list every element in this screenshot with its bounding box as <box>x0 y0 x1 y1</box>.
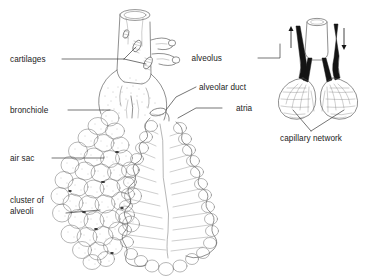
label-atria: atria <box>236 104 253 113</box>
label-alveolus: alveolus <box>192 54 222 63</box>
respiratory-diagram-figure: cartilages bronchiole air sac cluster of… <box>0 0 368 277</box>
cartilage-plate-side <box>122 29 130 39</box>
cartilage-plate-upper <box>131 39 143 53</box>
alveolus-capillary-inset <box>278 18 357 119</box>
capillary-network-right <box>322 84 355 118</box>
label-cartilages: cartilages <box>10 55 46 64</box>
leader-capillary-left <box>293 110 311 131</box>
label-cluster-of-alveoli-line2: alveoli <box>10 207 34 216</box>
label-cluster-of-alveoli-line1: cluster of <box>10 196 44 205</box>
leader-alveolus <box>258 44 280 58</box>
label-alveolar-duct: alveolar duct <box>199 83 247 92</box>
leader-capillary-right <box>311 110 344 131</box>
main-bronchiole-group <box>99 10 180 120</box>
label-air-sac: air sac <box>10 154 34 163</box>
diagram-canvas: cartilages bronchiole air sac cluster of… <box>0 0 368 277</box>
capillary-network-left <box>281 84 314 118</box>
leader-atria <box>178 108 222 118</box>
label-bronchiole: bronchiole <box>10 106 49 115</box>
label-capillary-network: capillary network <box>280 134 343 143</box>
alveolar-duct-group <box>119 107 219 276</box>
leader-lines <box>52 44 344 213</box>
trunk-stipple <box>103 78 159 116</box>
cartilage-plate-lower <box>142 56 154 71</box>
leader-alveolar-duct <box>166 87 196 110</box>
